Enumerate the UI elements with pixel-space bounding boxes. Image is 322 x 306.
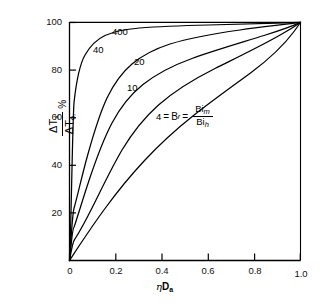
- x-tick-label-0.4: 0.4: [149, 265, 175, 276]
- x-axis-d-subscript: a: [169, 286, 173, 293]
- annotation-equals-1: =: [163, 111, 169, 122]
- annotation-b-symbol: B: [171, 111, 178, 122]
- y-axis-numerator-subscript: x: [52, 115, 61, 119]
- x-tick-label-0.8: 0.8: [242, 265, 268, 276]
- chart-annotation-biot-ratio: 4 = Br = Bim Bih: [156, 104, 213, 129]
- y-axis-percent-unit: %: [57, 100, 68, 109]
- curve-label-20: 20: [134, 56, 145, 67]
- y-axis-title: ΔTx ΔTo, %: [40, 70, 84, 166]
- curve-series-10: [70, 22, 301, 260]
- y-axis-title-fraction: ΔTx ΔTo,: [47, 112, 77, 136]
- x-tick-label-1.0: 1.0: [288, 268, 314, 279]
- x-tick-label-0.2: 0.2: [103, 265, 129, 276]
- x-axis-ticks: [70, 254, 301, 261]
- annotation-denominator-text: Bi: [196, 116, 204, 127]
- curve-series-4: [70, 22, 301, 260]
- y-axis-denominator-text: ΔT: [63, 120, 75, 134]
- curve-series-400: [70, 22, 301, 260]
- y-axis-denominator: ΔTo,: [63, 112, 77, 136]
- y-tick-label-100: 100: [38, 16, 62, 27]
- annotation-equals-2: =: [182, 111, 188, 122]
- curve-series-20: [70, 22, 301, 260]
- x-tick-label-0: 0: [59, 265, 81, 276]
- x-tick-label-0.6: 0.6: [195, 265, 221, 276]
- curve-series-40: [70, 22, 301, 260]
- curve-label-40: 40: [93, 44, 104, 55]
- curve-label-10: 10: [127, 82, 138, 93]
- y-axis-denominator-subscript: o,: [67, 114, 76, 120]
- annotation-b-subscript: r: [178, 112, 181, 121]
- annotation-numerator-text: Bi: [195, 103, 203, 114]
- annotation-lead-value: 4: [156, 111, 161, 122]
- annotation-biot-fraction: Bim Bih: [192, 104, 213, 129]
- y-tick-label-20: 20: [38, 207, 62, 218]
- y-axis-numerator-text: ΔT: [47, 119, 59, 133]
- x-axis-title: ηDa: [156, 281, 173, 293]
- chart-figure: 100 80 60 40 20 0 0.2 0.4 0.6 0.8 1.0 40…: [0, 0, 322, 306]
- y-axis-numerator: ΔTx: [47, 112, 62, 136]
- curve-label-400: 400: [112, 26, 128, 37]
- data-curves: [70, 22, 301, 260]
- annotation-fraction-denominator: Bih: [192, 117, 213, 129]
- annotation-numerator-subscript: m: [204, 107, 210, 116]
- annotation-denominator-subscript: h: [205, 120, 209, 129]
